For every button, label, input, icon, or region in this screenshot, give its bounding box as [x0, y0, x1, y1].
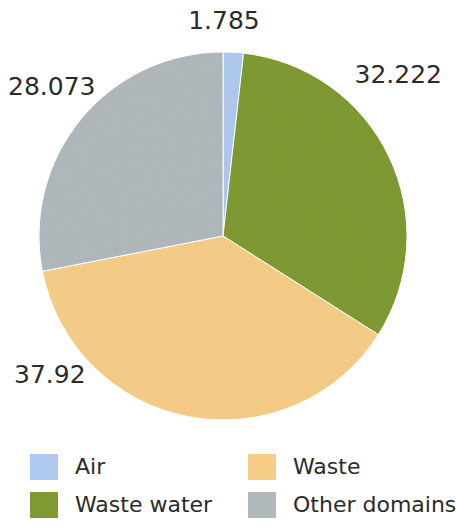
legend-item-air[interactable]: Air: [30, 452, 105, 482]
value-label-air: 1.785: [0, 6, 448, 35]
legend-swatch-waste-water: [30, 492, 58, 518]
legend-swatch-waste: [248, 454, 276, 480]
legend-item-waste[interactable]: Waste: [248, 452, 360, 482]
legend-label-waste: Waste: [293, 456, 360, 478]
value-label-waste: 37.92: [14, 360, 86, 389]
legend-label-waste-water: Waste water: [75, 494, 212, 516]
legend-label-other-domains: Other domains: [293, 494, 456, 516]
legend-item-other-domains[interactable]: Other domains: [248, 490, 456, 520]
pie-plot-area: 1.785 32.222 28.073 37.92: [0, 0, 448, 436]
legend-swatch-other-domains: [248, 492, 276, 518]
pie-slice-group: [39, 52, 407, 420]
legend-swatch-air: [30, 454, 58, 480]
legend-label-air: Air: [75, 456, 105, 478]
value-label-waste-water: 32.222: [355, 60, 442, 89]
legend: Air Waste Waste water Other domains: [0, 444, 448, 529]
legend-item-waste-water[interactable]: Waste water: [30, 490, 212, 520]
value-label-other-domains: 28.073: [8, 72, 95, 101]
